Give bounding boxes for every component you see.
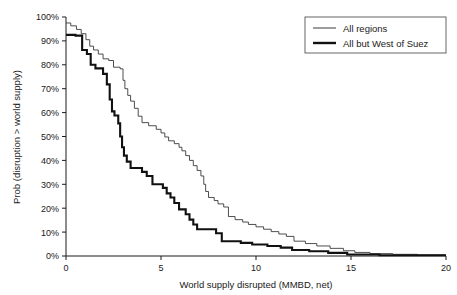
legend-label-all-regions: All regions bbox=[343, 23, 388, 34]
y-axis-title: Prob (disruption > world supply) bbox=[11, 70, 22, 204]
y-tick-label: 100% bbox=[36, 12, 59, 22]
y-tick-label: 20% bbox=[41, 204, 59, 214]
y-tick-label: 70% bbox=[41, 84, 59, 94]
y-tick-label: 50% bbox=[41, 132, 59, 142]
y-tick-label: 40% bbox=[41, 156, 59, 166]
y-tick-label: 80% bbox=[41, 60, 59, 70]
exceedance-probability-chart: 0%10%20%30%40%50%60%70%80%90%100% 051015… bbox=[0, 0, 457, 295]
x-tick-label: 0 bbox=[63, 263, 68, 273]
legend-label-all-but-west-of-suez: All but West of Suez bbox=[343, 38, 429, 49]
x-tick-label: 5 bbox=[158, 263, 163, 273]
x-tick-label: 15 bbox=[346, 263, 356, 273]
legend: All regions All but West of Suez bbox=[305, 17, 446, 53]
x-tick-label: 20 bbox=[441, 263, 451, 273]
y-tick-label: 10% bbox=[41, 228, 59, 238]
y-tick-label: 0% bbox=[46, 251, 59, 261]
y-tick-label: 30% bbox=[41, 180, 59, 190]
chart-figure: 0%10%20%30%40%50%60%70%80%90%100% 051015… bbox=[0, 0, 457, 295]
y-tick-label: 60% bbox=[41, 108, 59, 118]
x-tick-label: 10 bbox=[251, 263, 261, 273]
x-axis-title: World supply disrupted (MMBD, net) bbox=[180, 279, 333, 290]
y-tick-label: 90% bbox=[41, 36, 59, 46]
